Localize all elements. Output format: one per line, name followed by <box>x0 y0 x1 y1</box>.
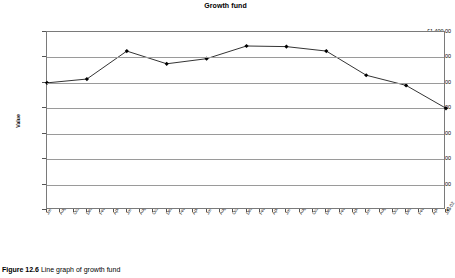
gridline <box>47 83 444 84</box>
data-point-marker <box>244 44 248 48</box>
plot-area <box>46 31 445 209</box>
y-axis-title: Value <box>15 101 21 141</box>
figure-caption-text: Line graph of growth fund <box>39 266 120 273</box>
gridline <box>47 159 444 160</box>
gridline <box>47 57 444 58</box>
gridline <box>47 185 444 186</box>
data-point-marker <box>404 83 408 87</box>
gridline <box>47 108 444 109</box>
data-point-marker <box>165 62 169 66</box>
data-point-marker <box>284 45 288 49</box>
data-point-marker <box>324 49 328 53</box>
data-point-marker <box>364 73 368 77</box>
figure-number: Figure 12.6 <box>2 266 39 273</box>
figure-caption: Figure 12.6 Line graph of growth fund <box>2 265 451 274</box>
series-polyline <box>47 46 446 108</box>
series-line-growth-fund <box>47 32 446 210</box>
chart-title: Growth fund <box>0 2 451 9</box>
gridline <box>47 134 444 135</box>
